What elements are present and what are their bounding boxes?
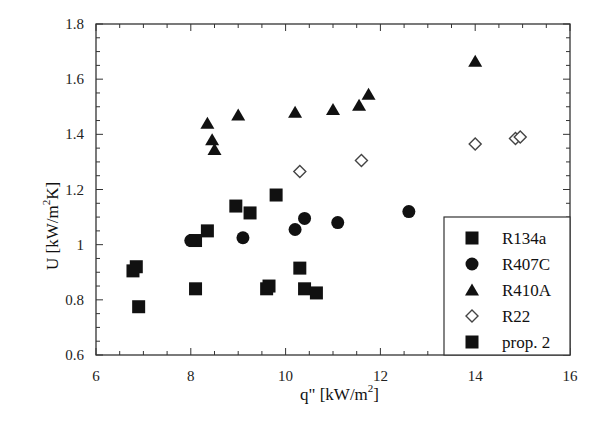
legend-label: R410A bbox=[502, 281, 552, 300]
data-point bbox=[293, 262, 306, 275]
legend-label: R22 bbox=[502, 307, 530, 326]
data-point bbox=[352, 99, 366, 111]
y-tick-label: 1.4 bbox=[65, 126, 84, 142]
series-r134a bbox=[126, 189, 322, 314]
data-point bbox=[355, 155, 367, 167]
y-tick-label: 1.6 bbox=[65, 71, 84, 87]
data-point bbox=[468, 55, 482, 67]
data-point bbox=[294, 166, 306, 178]
data-point bbox=[298, 282, 311, 295]
x-axis-label: q" [kW/m2] bbox=[300, 382, 379, 404]
data-point bbox=[189, 282, 202, 295]
square-marker-icon bbox=[466, 336, 479, 349]
data-point bbox=[231, 109, 245, 121]
data-point bbox=[130, 260, 143, 273]
data-point bbox=[326, 103, 340, 115]
data-point bbox=[132, 300, 145, 313]
x-tick-label: 8 bbox=[187, 368, 195, 384]
y-tick-label: 1.8 bbox=[65, 16, 84, 32]
legend-label: R407C bbox=[502, 255, 550, 274]
x-tick-label: 10 bbox=[278, 368, 293, 384]
x-tick-label: 14 bbox=[468, 368, 484, 384]
y-tick-label: 1 bbox=[77, 237, 85, 253]
data-point bbox=[289, 223, 302, 236]
x-tick-label: 6 bbox=[92, 368, 100, 384]
data-point bbox=[270, 189, 283, 202]
legend: R134aR407CR410AR22prop. 2 bbox=[444, 217, 570, 355]
y-tick-label: 0.8 bbox=[65, 292, 84, 308]
data-point bbox=[184, 234, 197, 247]
data-point bbox=[469, 138, 481, 150]
data-point bbox=[288, 106, 302, 118]
x-tick-label: 12 bbox=[373, 368, 388, 384]
legend-label: prop. 2 bbox=[502, 333, 550, 352]
data-point bbox=[362, 88, 376, 100]
square-marker-icon bbox=[466, 232, 479, 245]
data-point bbox=[298, 212, 311, 225]
y-tick-label: 0.6 bbox=[65, 347, 84, 363]
series-r407c bbox=[184, 205, 415, 247]
data-point bbox=[244, 206, 257, 219]
data-point bbox=[331, 216, 344, 229]
scatter-chart: 68101214160.60.811.21.41.61.8 q" [kW/m2]… bbox=[0, 0, 608, 427]
circle-marker-icon bbox=[466, 258, 479, 271]
series-r22 bbox=[294, 131, 526, 177]
data-point bbox=[200, 117, 214, 129]
x-tick-label: 16 bbox=[563, 368, 579, 384]
data-point bbox=[263, 280, 276, 293]
data-point bbox=[229, 200, 242, 213]
y-axis-label: U [kW/m2K] bbox=[40, 182, 62, 270]
data-point bbox=[201, 224, 214, 237]
data-point bbox=[205, 133, 219, 145]
series-r410a bbox=[200, 55, 482, 155]
data-point bbox=[236, 231, 249, 244]
data-point bbox=[310, 286, 323, 299]
y-tick-label: 1.2 bbox=[65, 182, 84, 198]
data-point bbox=[402, 205, 415, 218]
legend-label: R134a bbox=[502, 229, 547, 248]
